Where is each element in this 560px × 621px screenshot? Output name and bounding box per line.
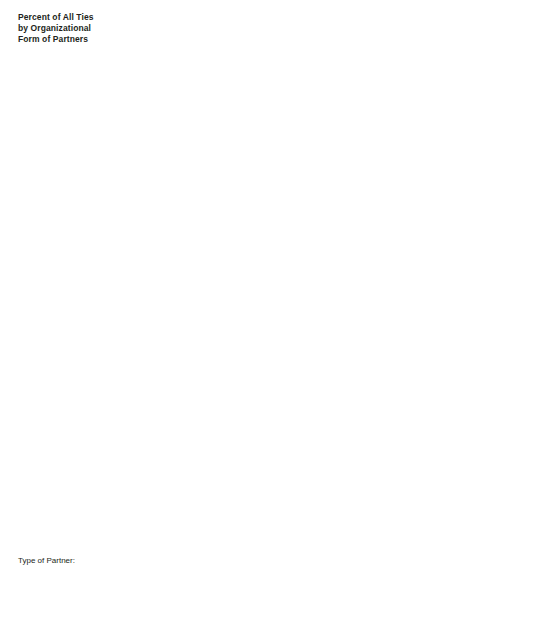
legend-items [18, 569, 348, 609]
page-title: Percent of All Ties by Organizational Fo… [18, 12, 94, 45]
legend: Type of Partner: [18, 556, 348, 609]
legend-heading: Type of Partner: [18, 556, 348, 565]
